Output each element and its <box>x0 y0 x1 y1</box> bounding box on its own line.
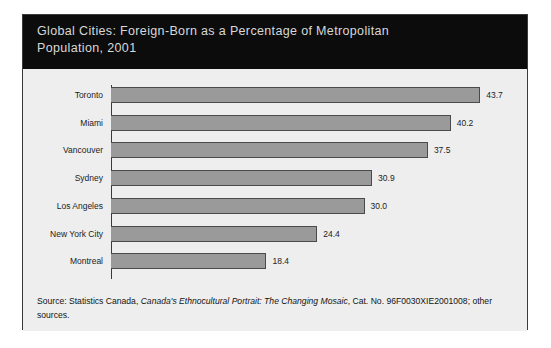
bar-wrapper <box>111 198 365 214</box>
category-label: Toronto <box>31 85 103 105</box>
category-label: Montreal <box>31 251 103 271</box>
bar <box>111 115 451 131</box>
bar-wrapper <box>111 142 428 158</box>
bar-chart-plot-area: Toronto43.7Miami40.2Vancouver37.5Sydney3… <box>31 85 519 279</box>
bar <box>111 253 266 269</box>
category-label: Los Angeles <box>31 196 103 216</box>
bar-row: Vancouver37.5 <box>31 140 519 160</box>
bar <box>111 226 317 242</box>
bar <box>111 87 480 103</box>
bar-value-label: 43.7 <box>486 87 503 103</box>
source-prefix: Source: Statistics Canada, <box>37 296 141 306</box>
figure-header: Global Cities: Foreign-Born as a Percent… <box>23 15 527 69</box>
source-publication-title: Canada's Ethnocultural Portrait: The Cha… <box>141 296 348 306</box>
source-note: Source: Statistics Canada, Canada's Ethn… <box>37 295 499 322</box>
bar-wrapper <box>111 87 480 103</box>
figure-title: Global Cities: Foreign-Born as a Percent… <box>37 23 513 57</box>
bar-value-label: 30.0 <box>371 198 388 214</box>
bar-value-label: 24.4 <box>323 226 340 242</box>
bar <box>111 170 372 186</box>
figure-body-panel: Toronto43.7Miami40.2Vancouver37.5Sydney3… <box>23 69 527 331</box>
bar-value-label: 37.5 <box>434 142 451 158</box>
bar-value-label: 30.9 <box>378 170 395 186</box>
bar-wrapper <box>111 115 451 131</box>
bar <box>111 198 365 214</box>
figure-container: Global Cities: Foreign-Born as a Percent… <box>22 14 528 330</box>
bar-row: Montreal18.4 <box>31 251 519 271</box>
bar-wrapper <box>111 170 372 186</box>
bar-row: New York City24.4 <box>31 224 519 244</box>
category-label: Vancouver <box>31 140 103 160</box>
bar-row: Los Angeles30.0 <box>31 196 519 216</box>
bar-wrapper <box>111 226 317 242</box>
category-label: Sydney <box>31 168 103 188</box>
category-label: Miami <box>31 113 103 133</box>
bar-value-label: 40.2 <box>457 115 474 131</box>
bar-row: Toronto43.7 <box>31 85 519 105</box>
bar-row: Miami40.2 <box>31 113 519 133</box>
bar-value-label: 18.4 <box>272 253 289 269</box>
category-label: New York City <box>31 224 103 244</box>
bar-wrapper <box>111 253 266 269</box>
bar-row: Sydney30.9 <box>31 168 519 188</box>
bar <box>111 142 428 158</box>
